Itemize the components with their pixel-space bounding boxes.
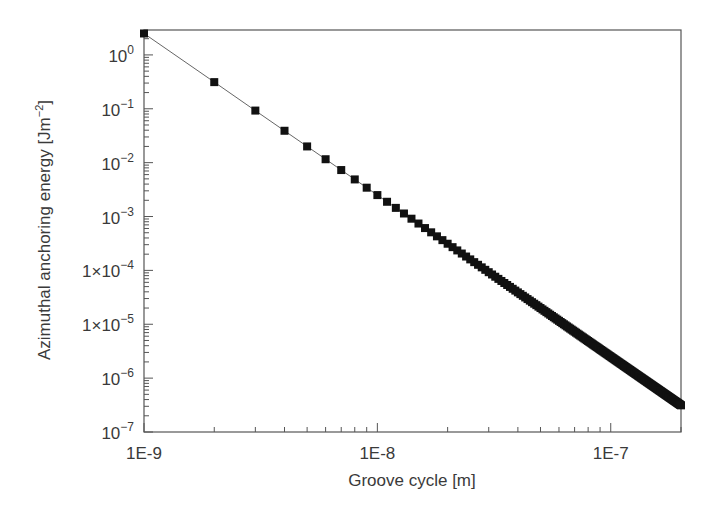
data-point-marker xyxy=(351,175,359,183)
x-tick-label: 1E-9 xyxy=(126,444,162,463)
x-axis-label: Groove cycle [m] xyxy=(348,471,476,490)
x-tick-label: 1E-8 xyxy=(359,444,395,463)
data-series xyxy=(140,29,685,409)
y-axis-label-main: Azimuthal anchoring energy [Jm xyxy=(35,117,54,360)
data-point-marker xyxy=(677,401,685,409)
y-tick-label: 1×10−4 xyxy=(82,258,134,281)
data-point-marker xyxy=(392,204,400,212)
data-point-marker xyxy=(363,184,371,192)
data-point-marker xyxy=(210,78,218,86)
y-tick-label: 1×10−5 xyxy=(82,312,134,335)
y-tick-label: 10−1 xyxy=(101,97,134,120)
y-axis-label-exp: −2 xyxy=(33,105,45,118)
plot-frame xyxy=(144,30,681,432)
data-point-marker xyxy=(322,155,330,163)
y-axis-label: Azimuthal anchoring energy [Jm−2] xyxy=(33,100,54,360)
data-point-marker xyxy=(303,142,311,150)
y-axis-ticks: 10010−110−210−31×10−41×10−510−610−7 xyxy=(82,39,153,443)
data-point-marker xyxy=(251,107,259,115)
x-axis-ticks: 1E-91E-81E-7 xyxy=(126,423,681,463)
chart: 1E-91E-81E-7 10010−110−210−31×10−41×10−5… xyxy=(0,0,718,515)
data-point-marker xyxy=(407,215,415,223)
x-tick-label: 1E-7 xyxy=(593,444,629,463)
y-tick-label: 100 xyxy=(108,43,134,66)
y-tick-label: 10−7 xyxy=(101,420,134,443)
data-point-marker xyxy=(140,29,148,37)
y-tick-label: 10−2 xyxy=(101,151,134,174)
data-point-marker xyxy=(337,166,345,174)
data-point-marker xyxy=(373,191,381,199)
y-tick-label: 10−3 xyxy=(101,205,134,228)
y-tick-label: 10−6 xyxy=(101,366,134,389)
data-point-marker xyxy=(281,127,289,135)
data-point-marker xyxy=(400,209,408,217)
data-point-marker xyxy=(383,198,391,206)
